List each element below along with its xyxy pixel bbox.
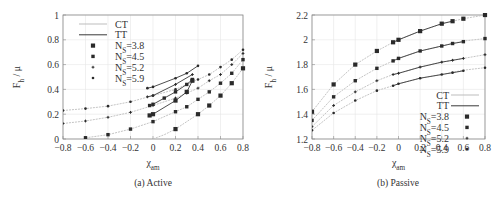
marker-ns-5-2 (440, 61, 443, 64)
marker-ns-5-9 (92, 77, 95, 80)
marker-ns-5-9 (242, 48, 245, 51)
marker-ns-4-5 (219, 82, 222, 85)
marker-ns-3-8 (218, 94, 222, 98)
x-axis: −0.8−0.6−0.4−0.200.20.40.60.8 (54, 136, 249, 153)
marker-ns-4-5 (483, 37, 486, 40)
marker-ns-4-5 (230, 72, 233, 75)
marker-ns-5-9 (174, 77, 177, 80)
marker-ns-5-9 (466, 148, 469, 151)
x-tick-label: 0.8 (237, 143, 249, 153)
series-group (62, 48, 246, 139)
marker-ns-3-8 (465, 115, 469, 119)
marker-ns-3-8 (207, 103, 211, 107)
x-tick-label: −0.8 (54, 143, 71, 153)
marker-ns-5-9 (354, 99, 357, 102)
y-tick-label: 1.4 (296, 110, 308, 120)
x-tick-label: −0.6 (325, 143, 342, 153)
legend: CTTTNS=3.8NS=4.5NS=5.2NS=5.9 (79, 19, 144, 88)
marker-ns-4-5 (418, 49, 421, 52)
x-tick-label: −0.6 (77, 143, 94, 153)
figure: −0.8−0.6−0.4−0.200.20.40.60.800.20.40.60… (0, 0, 501, 207)
marker-ns-5-2 (397, 72, 400, 75)
marker-ns-3-8 (151, 112, 155, 116)
y-tick-label: 0.6 (47, 60, 59, 70)
marker-ns-5-9 (311, 129, 314, 132)
marker-ns-3-8 (461, 17, 465, 21)
x-tick-label: 0.4 (192, 143, 204, 153)
marker-ns-4-5 (174, 110, 177, 113)
x-tick-label: 0.6 (215, 143, 227, 153)
marker-ns-3-8 (185, 90, 189, 94)
y-axis-label: Fh / μ (11, 66, 26, 88)
marker-ns-3-8 (173, 98, 177, 102)
y-tick-label: 0.8 (47, 35, 59, 45)
y-tick-label: 1.2 (296, 135, 308, 145)
marker-ns-3-8 (450, 19, 454, 23)
y-tick-label: 2 (303, 35, 308, 45)
y-tick-label: 1.8 (296, 60, 308, 70)
legend-label: TT (115, 29, 127, 40)
marker-ns-3-8 (230, 81, 234, 85)
marker-ns-4-5 (84, 136, 87, 139)
marker-ns-5-9 (146, 87, 149, 90)
marker-ns-5-9 (451, 71, 454, 74)
x-tick-label: −0.8 (303, 143, 320, 153)
marker-ns-4-5 (354, 79, 357, 82)
marker-ns-5-9 (219, 66, 222, 69)
x-tick-label: 0 (151, 143, 156, 153)
marker-ns-5-2 (107, 116, 110, 119)
marker-ns-5-9 (392, 84, 395, 87)
marker-ns-5-2 (62, 122, 65, 125)
marker-ns-3-8 (396, 38, 400, 42)
x-tick-label: −0.4 (347, 143, 364, 153)
x-axis-label: χam (145, 157, 160, 172)
marker-ns-5-2 (462, 57, 465, 60)
y-tick-label: 1.6 (296, 85, 308, 95)
marker-ns-5-9 (107, 105, 110, 108)
marker-ns-5-2 (419, 66, 422, 69)
y-tick-label: 2.2 (296, 11, 308, 21)
plot-active: −0.8−0.6−0.4−0.200.20.40.60.800.20.40.60… (11, 11, 249, 173)
marker-ns-4-5 (191, 78, 194, 81)
marker-ns-4-5 (151, 103, 154, 106)
marker-ns-3-8 (353, 63, 357, 67)
marker-ns-4-5 (451, 42, 454, 45)
x-tick-label: 0 (396, 143, 401, 153)
x-tick-label: −0.2 (122, 143, 139, 153)
marker-ns-5-2 (84, 120, 87, 123)
marker-ns-5-9 (397, 83, 400, 86)
marker-ns-5-9 (462, 70, 465, 73)
marker-ns-5-9 (62, 109, 65, 112)
marker-ns-4-5 (462, 40, 465, 43)
marker-ns-5-2 (451, 59, 454, 62)
x-tick-label: 0.8 (479, 143, 491, 153)
marker-ns-3-8 (332, 82, 336, 86)
marker-ns-5-9 (484, 66, 487, 69)
marker-ns-4-5 (375, 67, 378, 70)
legend-label: TT (437, 100, 449, 111)
grid (312, 15, 485, 139)
marker-ns-4-5 (129, 127, 132, 130)
y-tick-label: 0.2 (47, 110, 59, 120)
marker-ns-4-5 (174, 90, 177, 93)
marker-ns-3-8 (418, 29, 422, 33)
marker-ns-5-2 (484, 53, 487, 56)
marker-ns-5-9 (152, 86, 155, 89)
marker-ns-5-9 (230, 58, 233, 61)
marker-ns-4-5 (397, 57, 400, 60)
legend-label: NS=5.9 (115, 73, 144, 88)
marker-ns-4-5 (163, 96, 166, 99)
marker-ns-4-5 (241, 58, 244, 61)
marker-ns-3-8 (440, 22, 444, 26)
marker-ns-5-9 (208, 73, 211, 76)
marker-ns-5-2 (208, 79, 211, 82)
marker-ns-5-9 (129, 101, 132, 104)
marker-ns-5-9 (197, 78, 200, 81)
marker-ns-5-9 (84, 107, 87, 110)
legend-label: NS=5.9 (420, 144, 449, 159)
marker-ns-4-5 (310, 119, 313, 122)
marker-ns-3-8 (483, 13, 487, 17)
x-axis-label: χam (391, 157, 406, 172)
marker-ns-3-8 (196, 112, 200, 116)
marker-ns-3-8 (391, 40, 395, 44)
